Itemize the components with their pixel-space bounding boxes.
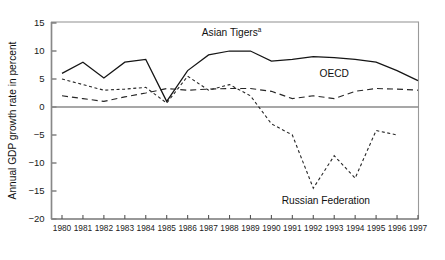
x-tick-label: 1986	[178, 223, 197, 233]
x-tick-label: 1996	[388, 223, 407, 233]
y-tick-label: −20	[28, 213, 44, 224]
series-label-russian-federation: Russian Federation	[282, 195, 370, 206]
series-line-asian-tigers	[62, 51, 418, 101]
x-tick-label: 1993	[325, 223, 344, 233]
y-tick-label: 10	[34, 45, 45, 56]
y-tick-label: −15	[28, 185, 44, 196]
y-axis-title-text: Annual GDP growth rate in percent	[7, 41, 18, 199]
y-tick-label: −10	[28, 157, 44, 168]
series-label-asian-tigers: Asian Tigersa	[202, 26, 262, 38]
x-tick-label: 1987	[199, 223, 218, 233]
chart-canvas: 151050−5−10−15−20 1980198119821983198419…	[0, 0, 445, 260]
y-axis-title: Annual GDP growth rate in percent	[7, 41, 18, 199]
x-tick-label: 1983	[116, 223, 135, 233]
x-tick-label: 1991	[283, 223, 302, 233]
y-tick-label: 15	[34, 17, 45, 28]
y-tick-label: 0	[39, 101, 44, 112]
y-tick-label: 5	[39, 73, 44, 84]
x-tick-label: 1982	[95, 223, 114, 233]
x-tick-label: 1994	[346, 223, 365, 233]
x-tick-label: 1989	[241, 223, 260, 233]
series-label-oecd: OECD	[320, 68, 349, 79]
x-tick-label: 1997	[409, 223, 428, 233]
series-line-russian-federation	[62, 76, 397, 188]
data-series	[62, 51, 418, 188]
y-tick-label: −5	[34, 129, 45, 140]
series-annotations: Asian TigersaOECDRussian Federation	[202, 26, 370, 205]
x-tick-label: 1981	[74, 223, 93, 233]
x-tick-label: 1995	[367, 223, 386, 233]
gdp-growth-chart: 151050−5−10−15−20 1980198119821983198419…	[0, 0, 445, 260]
x-tick-label: 1980	[53, 223, 72, 233]
x-tick-label: 1990	[262, 223, 281, 233]
x-tick-label: 1985	[157, 223, 176, 233]
x-tick-label: 1988	[220, 223, 239, 233]
x-tick-label: 1984	[137, 223, 156, 233]
x-tick-label: 1992	[304, 223, 323, 233]
x-axis-ticks: 1980198119821983198419851986198719881989…	[53, 215, 428, 233]
